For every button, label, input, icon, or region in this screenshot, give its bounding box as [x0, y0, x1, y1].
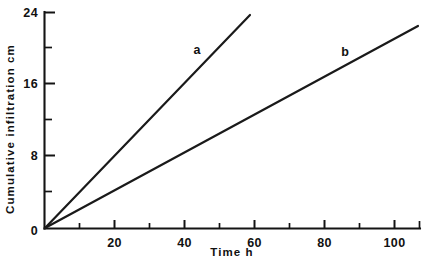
y-axis-title: Cumulative infiltration cm [4, 44, 16, 214]
x-tick-label-80: 80 [317, 236, 332, 250]
series-label-a: a [194, 43, 202, 57]
series-label-b: b [341, 45, 349, 59]
y-tick-label-8: 8 [31, 149, 38, 163]
x-axis-title: Time h [210, 246, 253, 258]
x-tick-label-20: 20 [107, 236, 122, 250]
series-line-a [45, 15, 250, 228]
series-line-b [45, 26, 418, 228]
y-tick-label-24: 24 [23, 6, 38, 20]
infiltration-chart-figure: 24 16 8 0 20 40 60 80 100 Cumulative inf… [0, 0, 435, 261]
y-tick-label-0: 0 [31, 224, 38, 238]
x-tick-label-40: 40 [177, 236, 192, 250]
y-tick-label-16: 16 [23, 77, 38, 91]
cumulative-infiltration-line-chart: 24 16 8 0 20 40 60 80 100 Cumulative inf… [0, 0, 435, 261]
x-tick-label-100: 100 [383, 236, 405, 250]
